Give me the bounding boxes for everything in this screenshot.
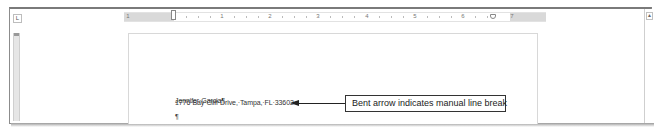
ruler-tick <box>258 16 259 18</box>
ruler-number: 4 <box>365 12 368 21</box>
ruler-tick <box>487 16 488 18</box>
ruler-tick <box>246 16 247 18</box>
ruler-tick <box>186 16 187 18</box>
ruler-tick <box>451 16 452 18</box>
left-indent-marker[interactable] <box>171 10 176 20</box>
ruler-tick <box>306 16 307 18</box>
top-margin-marker <box>14 33 19 36</box>
callout-box: Bent arrow indicates manual line break <box>345 95 506 112</box>
ruler-tick <box>439 16 440 18</box>
callout-arrow-line <box>298 103 346 104</box>
right-margin-area <box>510 13 546 21</box>
vertical-scrollbar[interactable]: ▲ <box>644 9 653 123</box>
ruler-tick <box>198 16 199 18</box>
ruler-number: 2 <box>268 12 271 21</box>
left-margin-area <box>124 13 174 21</box>
empty-paragraph-mark: ¶ <box>175 113 179 120</box>
ruler-number: 6 <box>461 12 464 21</box>
ruler-number: 3 <box>316 12 319 21</box>
ruler-number: 1 <box>126 12 129 21</box>
scroll-up-arrow-icon[interactable]: ▲ <box>646 12 653 20</box>
address-line[interactable]: 1776·Bay·Cliff·Drive,·Tampa,·FL·33602↵ <box>175 99 300 107</box>
ruler-tick <box>234 16 235 18</box>
ruler-number: 5 <box>413 12 416 21</box>
address-text: 1776·Bay·Cliff·Drive,·Tampa,·FL·33602↵ <box>175 99 300 106</box>
ruler-tick <box>475 16 476 18</box>
ruler-tick <box>427 16 428 18</box>
vertical-ruler[interactable] <box>13 33 20 121</box>
horizontal-ruler[interactable]: 1 1 2 3 4 5 6 7 <box>124 12 546 22</box>
ruler-tick <box>391 16 392 18</box>
ruler-tick <box>210 16 211 18</box>
ruler-tick <box>330 16 331 18</box>
ruler-tick <box>282 16 283 18</box>
tab-stop-selector[interactable]: L <box>13 14 22 23</box>
ruler-tick <box>354 16 355 18</box>
ruler-number: 7 <box>510 12 513 21</box>
ruler-tick <box>294 16 295 18</box>
ruler-tick <box>342 16 343 18</box>
ruler-number: 1 <box>220 12 223 21</box>
ruler-tick <box>403 16 404 18</box>
ruler-tick <box>379 16 380 18</box>
